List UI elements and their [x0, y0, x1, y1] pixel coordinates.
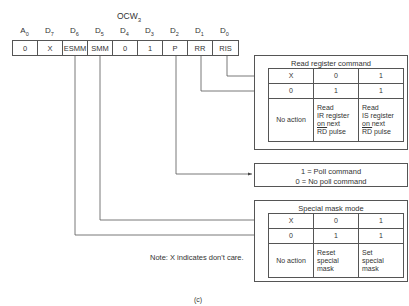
read-register-title: Read register command	[255, 59, 407, 68]
table-row: 011	[269, 84, 404, 99]
table-cell: 1	[359, 229, 404, 244]
action-cell: Resetspecialmask	[314, 244, 359, 278]
table-cell: 1	[314, 84, 359, 99]
read-register-table: X01011No actionReadIR registeron nextRD …	[268, 68, 404, 142]
table-cell: 1	[314, 229, 359, 244]
table-cell: X	[269, 214, 314, 229]
table-cell: 1	[359, 214, 404, 229]
table-row: 011	[269, 229, 404, 244]
action-cell: No action	[269, 99, 314, 142]
note-text: Note: X indicates don't care.	[150, 253, 244, 262]
table-row: X01	[269, 214, 404, 229]
table-cell: 1	[359, 69, 404, 84]
action-row: No actionReadIR registeron nextRD pulseR…	[269, 99, 404, 142]
figure-caption: (c)	[194, 295, 202, 304]
p-connector	[176, 56, 252, 174]
table-cell: X	[269, 69, 314, 84]
table-cell: 0	[269, 229, 314, 244]
action-cell: Setspecialmask	[359, 244, 404, 278]
action-cell: No action	[269, 244, 314, 278]
special-mask-title: Special mask mode	[255, 204, 407, 213]
action-cell: ReadIR registeron nextRD pulse	[314, 99, 359, 142]
poll-line-1: 1 = Poll command	[255, 167, 407, 176]
action-row: No actionResetspecialmaskSetspecialmask	[269, 244, 404, 278]
table-cell: 1	[359, 84, 404, 99]
table-cell: 0	[314, 69, 359, 84]
special-mask-table: X01011No actionResetspecialmaskSetspecia…	[268, 213, 404, 278]
table-cell: 0	[314, 214, 359, 229]
poll-box: 1 = Poll command 0 = No poll command	[254, 163, 408, 187]
table-cell: 0	[269, 84, 314, 99]
poll-line-2: 0 = No poll command	[255, 177, 407, 186]
table-row: X01	[269, 69, 404, 84]
action-cell: ReadIS registeron nextRD pulse	[359, 99, 404, 142]
